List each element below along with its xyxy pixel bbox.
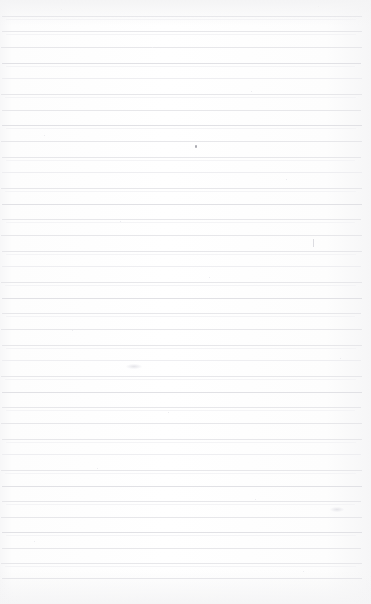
rule-line-echo <box>6 34 356 35</box>
rule-line <box>2 439 362 440</box>
paper-speck <box>209 277 210 278</box>
rule-line-echo <box>6 128 356 129</box>
scanned-page <box>0 0 371 604</box>
rule-line <box>1 235 362 236</box>
rule-line <box>2 219 361 220</box>
rule-line-echo <box>6 535 356 536</box>
rule-line <box>1 470 362 471</box>
rule-line <box>1 282 362 283</box>
rule-line <box>1 94 362 95</box>
rule-line <box>2 360 361 361</box>
rule-line <box>2 172 362 173</box>
rule-line <box>2 532 362 533</box>
rule-line <box>2 78 362 79</box>
rule-line <box>2 63 361 64</box>
rule-line <box>2 298 362 299</box>
rule-line-echo <box>5 191 356 192</box>
rule-line <box>2 266 361 267</box>
rule-line <box>1 188 362 189</box>
rule-line <box>2 345 362 346</box>
rule-line-echo <box>5 97 356 98</box>
rule-line-echo <box>6 254 356 255</box>
rule-line <box>2 16 362 17</box>
rule-line <box>2 501 361 502</box>
rule-line <box>1 376 362 377</box>
rule-line <box>2 578 362 579</box>
rule-line <box>2 392 362 393</box>
rule-line-echo <box>5 473 356 474</box>
rule-line-echo <box>5 566 356 567</box>
paper-speck <box>61 9 62 10</box>
rule-line <box>1 47 362 48</box>
rule-line <box>2 486 362 487</box>
paper-speck <box>286 179 287 180</box>
rule-line-echo <box>6 66 355 67</box>
rule-line-echo <box>5 379 356 380</box>
rule-line <box>1 563 362 564</box>
rule-line-echo <box>6 316 355 317</box>
rule-line <box>2 110 361 111</box>
rule-line <box>1 141 362 142</box>
rule-line-echo <box>6 504 355 505</box>
rule-line-echo <box>6 410 355 411</box>
rule-line-echo <box>6 222 355 223</box>
ruled-lines-layer <box>0 0 371 604</box>
rule-line <box>1 517 362 518</box>
rule-line <box>2 548 361 549</box>
paper-speck <box>340 358 341 359</box>
rule-line <box>1 423 362 424</box>
rule-line <box>2 407 361 408</box>
paper-speck <box>255 499 256 500</box>
paper-speck <box>152 47 153 48</box>
rule-line <box>2 125 362 126</box>
paper-speck <box>318 6 319 7</box>
rule-line-echo <box>6 442 356 443</box>
paper-speck <box>44 135 45 136</box>
paper-speck <box>251 91 252 92</box>
rule-line <box>2 31 362 32</box>
paper-speck <box>168 412 169 413</box>
paper-speck <box>72 330 73 331</box>
rule-line-echo <box>6 348 356 349</box>
rule-line <box>2 454 361 455</box>
rule-line <box>2 251 362 252</box>
rule-line <box>2 313 361 314</box>
rule-line <box>2 204 362 205</box>
rule-line-echo <box>5 285 356 286</box>
rule-line <box>2 157 361 158</box>
rule-line-echo <box>6 160 355 161</box>
paper-speck <box>34 541 35 542</box>
rule-line <box>1 329 362 330</box>
paper-speck <box>97 468 98 469</box>
rule-line-echo <box>6 19 356 20</box>
paper-speck <box>120 221 121 222</box>
paper-speck <box>303 571 304 572</box>
